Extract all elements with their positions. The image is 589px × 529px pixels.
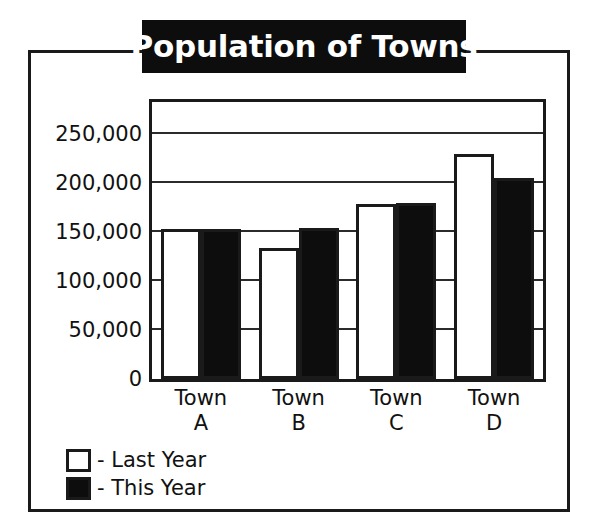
x-category-label-1-line2: B <box>249 411 349 436</box>
x-category-label-1: TownB <box>249 386 349 436</box>
bar-group-town-d <box>454 102 534 379</box>
bar-town-c-series-1 <box>396 203 436 379</box>
x-category-label-2-line2: C <box>346 411 446 436</box>
bar-town-a-series-1 <box>201 229 241 379</box>
x-category-label-3: TownD <box>444 386 544 436</box>
x-axis-category-labels: TownATownBTownCTownD <box>149 386 546 442</box>
y-tick-label-3: 150,000 <box>22 222 142 243</box>
x-category-label-0-line1: Town <box>175 386 228 410</box>
x-category-label-3-line2: D <box>444 411 544 436</box>
y-tick-label-1: 50,000 <box>22 320 142 341</box>
x-category-label-2-line1: Town <box>370 386 423 410</box>
plot-area <box>149 99 546 382</box>
bar-town-d-series-1 <box>494 178 534 379</box>
bar-group-town-a <box>161 102 241 379</box>
y-tick-label-4: 200,000 <box>22 173 142 194</box>
legend-label-1: - This Year <box>97 478 205 499</box>
legend-item-this-year: - This Year <box>66 474 206 502</box>
bar-town-b-series-1 <box>299 228 339 379</box>
x-category-label-3-line1: Town <box>468 386 521 410</box>
x-category-label-1-line1: Town <box>272 386 325 410</box>
bar-town-b-series-0 <box>259 248 299 379</box>
bar-chart-figure: Population of Towns 050,000100,000150,00… <box>0 0 589 529</box>
chart-legend: - Last Year- This Year <box>66 446 206 502</box>
bar-group-town-c <box>356 102 436 379</box>
x-category-label-2: TownC <box>346 386 446 436</box>
page-title: Population of Towns <box>131 31 478 62</box>
y-tick-label-2: 100,000 <box>22 271 142 292</box>
legend-label-0: - Last Year <box>97 450 206 471</box>
bar-town-a-series-0 <box>161 229 201 379</box>
y-tick-label-0: 0 <box>22 369 142 390</box>
x-category-label-0-line2: A <box>151 411 251 436</box>
bars-layer <box>152 102 543 379</box>
y-tick-label-5: 250,000 <box>22 124 142 145</box>
bar-town-d-series-0 <box>454 154 494 379</box>
legend-item-last-year: - Last Year <box>66 446 206 474</box>
y-axis-tick-labels: 050,000100,000150,000200,000250,000 <box>18 99 142 382</box>
legend-swatch-1 <box>66 477 91 500</box>
bar-group-town-b <box>259 102 339 379</box>
chart-title-banner: Population of Towns <box>142 20 466 73</box>
legend-swatch-0 <box>66 449 91 472</box>
bar-town-c-series-0 <box>356 204 396 379</box>
x-category-label-0: TownA <box>151 386 251 436</box>
